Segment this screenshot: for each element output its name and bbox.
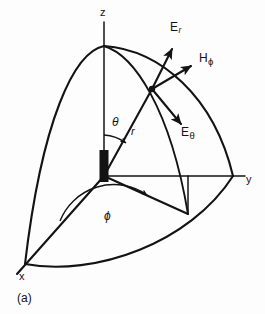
meridian-arc-through-point: [104, 46, 188, 214]
meridian-arc-yz: [104, 46, 233, 176]
diagram-canvas: [0, 0, 265, 314]
y-axis-label: y: [246, 174, 252, 185]
E-theta-subscript: θ: [189, 130, 195, 141]
figure-caption: (a): [17, 292, 32, 304]
phi-angle-label: ϕ: [104, 210, 111, 222]
H-phi-subscript: ϕ: [208, 56, 214, 67]
radius-vector-line: [104, 89, 152, 176]
dipole-element: [100, 150, 109, 182]
E-radial-label: Er: [170, 21, 181, 35]
meridian-arc-xz: [25, 46, 104, 264]
E-theta-base: E: [181, 125, 189, 139]
z-axis-label: z: [100, 7, 106, 18]
spherical-coordinate-figure: z y x θ ϕ r Er Hϕ Eθ (a): [0, 0, 265, 314]
radius-label: r: [131, 126, 135, 137]
x-axis-label: x: [19, 271, 25, 282]
equatorial-arc-xy: [25, 176, 233, 267]
E-theta-label: Eθ: [181, 126, 195, 140]
E-radial-subscript: r: [178, 25, 181, 35]
H-phi-label: Hϕ: [199, 52, 213, 66]
theta-angle-label: θ: [112, 116, 119, 128]
field-point-marker: [149, 86, 155, 92]
E-radial-base: E: [170, 20, 178, 34]
H-phi-base: H: [199, 51, 208, 65]
